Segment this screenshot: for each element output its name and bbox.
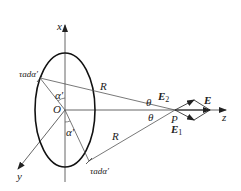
theta-upper-label: θ	[146, 96, 152, 108]
origin-label: O	[53, 103, 61, 115]
E2-vector	[175, 100, 194, 110]
charge-element-upper-label: τadα′	[19, 69, 39, 79]
charge-element-lower-label: τadα′	[90, 166, 110, 176]
element-mark-lower	[86, 158, 92, 164]
E2-label: E2	[157, 90, 169, 104]
E-label: E	[203, 94, 211, 106]
y-axis-label: y	[16, 170, 22, 182]
ring-charge-field-diagram: x y z O P R R θ θ α′ α′ τadα′ τadα′ E E1…	[0, 0, 241, 191]
E1-vector	[175, 110, 194, 120]
R-line-lower	[89, 110, 175, 161]
alpha-lower-label: α′	[66, 126, 75, 138]
R-lower-label: R	[111, 130, 119, 142]
x-axis-label: x	[56, 20, 62, 32]
R-upper-label: R	[99, 80, 107, 92]
y-axis	[18, 110, 65, 169]
E1-label: E1	[170, 123, 182, 137]
alpha-upper-label: α′	[55, 89, 64, 101]
theta-lower-label: θ	[148, 111, 154, 123]
alpha-arc-lower	[65, 121, 70, 122]
parallelogram-lower	[194, 110, 210, 120]
z-axis-label: z	[221, 111, 227, 123]
